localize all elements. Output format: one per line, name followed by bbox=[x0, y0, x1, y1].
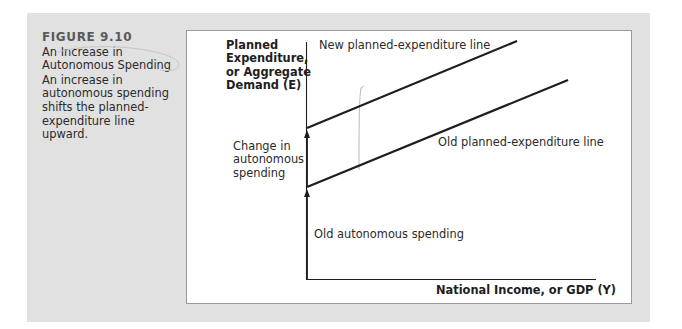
old-autonomous-label: Old autonomous spending bbox=[314, 228, 464, 241]
y-axis-label-line: Demand (E) bbox=[226, 79, 311, 92]
change-label-line: Change in bbox=[233, 140, 304, 153]
old-autonomous-arrow-head bbox=[304, 189, 310, 197]
pen-mark bbox=[359, 88, 361, 170]
y-axis-label-line: Planned bbox=[226, 39, 311, 52]
y-axis-label: Planned Expenditure, or Aggregate Demand… bbox=[226, 39, 311, 93]
old-planned-expenditure-line bbox=[307, 80, 568, 187]
new-line-label: New planned-expenditure line bbox=[319, 39, 490, 52]
change-arrow-head bbox=[304, 130, 310, 138]
y-axis-label-line: or Aggregate bbox=[226, 66, 311, 79]
old-line-label: Old planned-expenditure line bbox=[438, 136, 604, 149]
x-axis-label: National Income, or GDP (Y) bbox=[436, 284, 616, 297]
y-axis-label-line: Expenditure, bbox=[226, 52, 311, 65]
change-in-autonomous-label: Change in autonomous spending bbox=[233, 140, 304, 180]
change-label-line: autonomous bbox=[233, 153, 304, 166]
change-label-line: spending bbox=[233, 167, 304, 180]
